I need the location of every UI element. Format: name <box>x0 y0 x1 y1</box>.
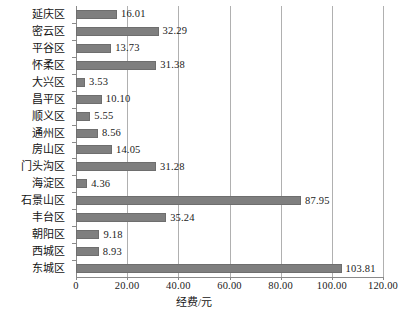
category-label: 顺义区 <box>0 108 70 125</box>
category-label: 怀柔区 <box>0 57 70 74</box>
bar-row: 32.29 <box>76 23 383 40</box>
bar-value-label: 31.28 <box>160 162 185 173</box>
bar-row: 16.01 <box>76 6 383 23</box>
x-axis-tick <box>76 277 77 280</box>
category-label: 丰台区 <box>0 209 70 226</box>
x-tick-label: 120.00 <box>368 280 398 293</box>
bar-chart: 延庆区密云区平谷区怀柔区大兴区昌平区顺义区通州区房山区门头沟区海淀区石景山区丰台… <box>0 0 406 317</box>
category-label: 密云区 <box>0 23 70 40</box>
bar-row: 103.81 <box>76 260 383 277</box>
bar[interactable]: 13.73 <box>76 44 111 53</box>
bar[interactable]: 10.10 <box>76 95 102 104</box>
x-tick-label: 80.00 <box>268 280 293 293</box>
bar[interactable]: 31.38 <box>76 61 156 70</box>
x-axis-title-text: 经费/元 <box>176 296 212 308</box>
x-tick-label: 40.00 <box>166 280 191 293</box>
category-label: 西城区 <box>0 243 70 260</box>
bar-value-label: 9.18 <box>103 229 122 240</box>
x-tick-label: 20.00 <box>115 280 140 293</box>
bar-row: 87.95 <box>76 192 383 209</box>
y-axis-category-labels: 延庆区密云区平谷区怀柔区大兴区昌平区顺义区通州区房山区门头沟区海淀区石景山区丰台… <box>0 6 70 277</box>
bar-value-label: 8.93 <box>103 246 122 257</box>
bar-row: 35.24 <box>76 209 383 226</box>
bar[interactable]: 87.95 <box>76 196 301 205</box>
x-axis-tick <box>127 277 128 280</box>
bar-row: 5.55 <box>76 108 383 125</box>
bar-value-label: 31.38 <box>160 60 185 71</box>
bar-value-label: 14.05 <box>116 145 141 156</box>
x-axis-tick-labels: 020.0040.0060.0080.00100.00120.00 <box>0 280 406 296</box>
bar-row: 31.38 <box>76 57 383 74</box>
x-tick-label: 0 <box>73 280 78 293</box>
bar-value-label: 32.29 <box>163 26 188 37</box>
bar[interactable]: 31.28 <box>76 162 156 171</box>
bar-value-label: 87.95 <box>305 196 330 207</box>
bar-row: 4.36 <box>76 175 383 192</box>
category-label: 通州区 <box>0 125 70 142</box>
x-axis-tick <box>383 277 384 280</box>
bar-value-label: 10.10 <box>106 94 131 105</box>
bar-value-label: 16.01 <box>121 9 146 20</box>
bar-row: 8.93 <box>76 243 383 260</box>
bar[interactable]: 35.24 <box>76 213 166 222</box>
plot-area: 16.0132.2913.7331.383.5310.105.558.5614.… <box>76 6 383 277</box>
x-tick-label: 100.00 <box>317 280 347 293</box>
bar[interactable]: 32.29 <box>76 27 159 36</box>
category-label: 平谷区 <box>0 40 70 57</box>
bar[interactable]: 9.18 <box>76 230 99 239</box>
bar-row: 13.73 <box>76 40 383 57</box>
category-label: 大兴区 <box>0 74 70 91</box>
bar[interactable]: 8.93 <box>76 247 99 256</box>
bar-value-label: 5.55 <box>94 111 113 122</box>
category-label: 朝阳区 <box>0 226 70 243</box>
bar-value-label: 3.53 <box>89 77 108 88</box>
bar-row: 10.10 <box>76 91 383 108</box>
bar-row: 31.28 <box>76 158 383 175</box>
bar-value-label: 35.24 <box>170 212 195 223</box>
x-axis-tick <box>178 277 179 280</box>
bar[interactable]: 14.05 <box>76 145 112 154</box>
bar-value-label: 8.56 <box>102 128 121 139</box>
bar[interactable]: 3.53 <box>76 78 85 87</box>
bar-value-label: 4.36 <box>91 179 110 190</box>
category-label: 昌平区 <box>0 91 70 108</box>
x-tick-label: 60.00 <box>217 280 242 293</box>
category-label: 海淀区 <box>0 175 70 192</box>
bar[interactable]: 103.81 <box>76 264 342 273</box>
bar-row: 14.05 <box>76 142 383 159</box>
x-axis-tick <box>281 277 282 280</box>
bar[interactable]: 8.56 <box>76 129 98 138</box>
bar[interactable]: 5.55 <box>76 112 90 121</box>
bar-row: 8.56 <box>76 125 383 142</box>
category-label: 房山区 <box>0 142 70 159</box>
x-axis-title: 经费/元 <box>0 297 406 308</box>
category-label: 门头沟区 <box>0 158 70 175</box>
bar-value-label: 103.81 <box>346 263 376 274</box>
bar-row: 3.53 <box>76 74 383 91</box>
gridline-120 <box>383 6 384 277</box>
bar-row: 9.18 <box>76 226 383 243</box>
bar[interactable]: 4.36 <box>76 179 87 188</box>
category-label: 延庆区 <box>0 6 70 23</box>
bar-rows: 16.0132.2913.7331.383.5310.105.558.5614.… <box>76 6 383 277</box>
category-label: 石景山区 <box>0 192 70 209</box>
category-label: 东城区 <box>0 260 70 277</box>
x-axis-tick <box>332 277 333 280</box>
bar-value-label: 13.73 <box>115 43 140 54</box>
bar[interactable]: 16.01 <box>76 10 117 19</box>
x-axis-tick <box>230 277 231 280</box>
